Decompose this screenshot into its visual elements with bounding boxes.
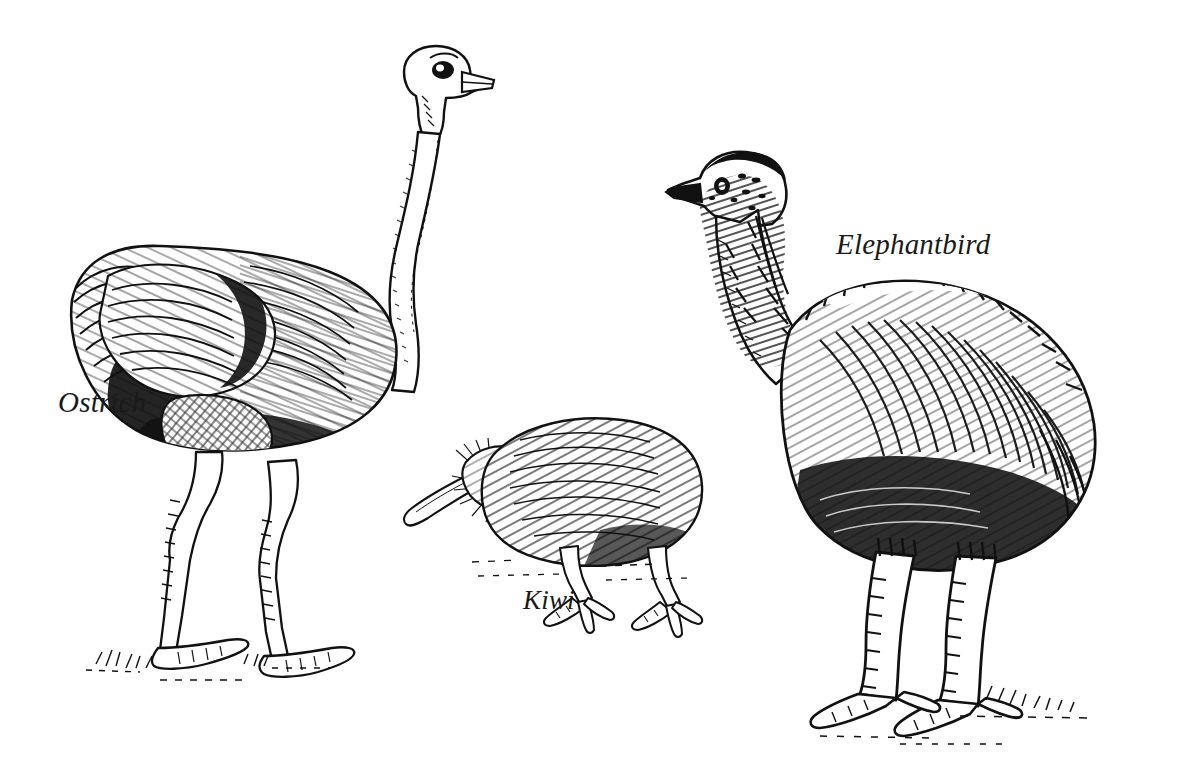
elephantbird-legs bbox=[860, 552, 996, 706]
label-kiwi: Kiwi bbox=[523, 585, 575, 616]
elephantbird-feet bbox=[811, 692, 1022, 736]
label-ostrich: Ostrich bbox=[58, 386, 146, 419]
label-elephantbird: Elephantbird bbox=[836, 228, 990, 261]
ratite-comparison-artwork bbox=[0, 0, 1194, 763]
illustration-canvas: Ostrich Kiwi Elephantbird bbox=[0, 0, 1194, 763]
ostrich-figure bbox=[60, 46, 494, 680]
ostrich-feet bbox=[152, 639, 354, 677]
ostrich-head bbox=[404, 46, 494, 138]
ostrich-legs bbox=[160, 452, 298, 660]
ostrich-body bbox=[60, 240, 410, 490]
